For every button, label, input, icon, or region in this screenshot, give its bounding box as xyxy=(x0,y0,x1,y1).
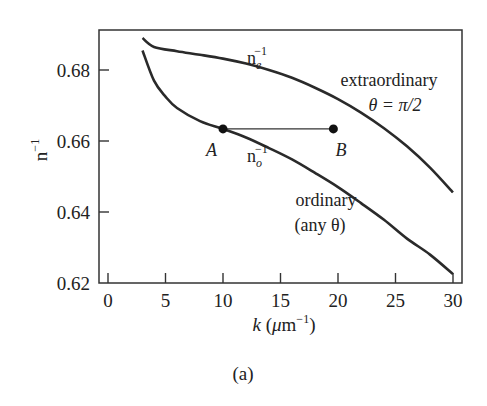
x-tick-label: 15 xyxy=(271,290,290,311)
x-tick-label: 20 xyxy=(329,290,348,311)
data-points: AB xyxy=(205,124,346,160)
x-tick-label: 0 xyxy=(103,290,113,311)
point-label-b: B xyxy=(335,140,346,160)
y-tick-label: 0.64 xyxy=(57,202,91,223)
extraordinary-label: extraordinary xyxy=(341,70,438,90)
y-tick-label: 0.62 xyxy=(57,273,90,294)
theta-pi-over-2-label: θ = π/2 xyxy=(368,95,421,115)
point-label-a: A xyxy=(205,140,218,160)
y-tick-label: 0.66 xyxy=(57,131,90,152)
y-axis-label: n−1 xyxy=(28,139,51,161)
x-tick-label: 25 xyxy=(386,290,405,311)
x-tick-label: 30 xyxy=(444,290,463,311)
ordinary-label: ordinary xyxy=(296,190,357,210)
y-tick-label: 0.68 xyxy=(57,60,90,81)
x-axis-ticks: 051015202530 xyxy=(103,273,462,311)
plot-frame xyxy=(99,30,462,283)
no-label: no−1 xyxy=(247,142,268,170)
x-tick-label: 5 xyxy=(161,290,171,311)
point-a xyxy=(219,124,228,133)
y-axis-ticks: 0.620.640.660.68 xyxy=(57,60,109,294)
any-theta-label: (any θ) xyxy=(294,215,345,236)
figure-caption: (a) xyxy=(232,363,253,385)
chart: 051015202530 0.620.640.660.68 AB ne−1 no… xyxy=(0,0,487,406)
point-b xyxy=(329,124,338,133)
x-axis-label: k (μm−1) xyxy=(253,312,316,336)
x-tick-label: 10 xyxy=(214,290,233,311)
